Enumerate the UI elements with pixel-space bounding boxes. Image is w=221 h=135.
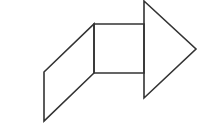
parallelogram-shape [44, 24, 94, 121]
arrow-diagram [0, 0, 221, 135]
diagram-canvas [0, 0, 221, 135]
triangle-arrowhead-shape [144, 1, 196, 98]
square-shape [94, 24, 144, 73]
